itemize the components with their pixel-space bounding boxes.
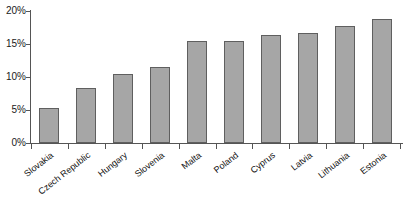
x-tick-mark (400, 144, 401, 149)
bar (150, 67, 170, 143)
x-tick-mark (326, 144, 327, 149)
bar (261, 35, 281, 143)
x-tick-mark (105, 144, 106, 149)
x-tick-mark (179, 144, 180, 149)
bar (187, 41, 207, 143)
bar (372, 19, 392, 143)
x-label-slot: Czech Republic (68, 150, 105, 208)
x-axis-label: Slovakia (23, 150, 56, 179)
y-tick-label-0: 0% (12, 138, 26, 148)
x-axis-label: Latvia (289, 150, 314, 173)
x-axis-label: Cyprus (248, 150, 277, 175)
x-axis-label: Malta (180, 150, 204, 171)
x-label-slot: Estonia (363, 150, 400, 208)
y-tick-label-5: 5% (12, 105, 26, 115)
bar-slot (252, 11, 289, 143)
x-label-slot: Slovenia (142, 150, 179, 208)
bar (335, 26, 355, 143)
bar-slot (289, 11, 326, 143)
bar (39, 108, 59, 143)
x-label-slot: Lithuania (326, 150, 363, 208)
x-label-slot: Malta (179, 150, 216, 208)
y-tick-label-10: 10% (6, 72, 26, 82)
x-tick-mark (252, 144, 253, 149)
x-axis-tick-marks (31, 144, 400, 149)
bar-slot (68, 11, 105, 143)
bar (298, 33, 318, 143)
bar (224, 41, 244, 143)
bar-slot (216, 11, 253, 143)
x-tick-mark (142, 144, 143, 149)
x-axis-label: Estonia (358, 150, 388, 176)
x-tick-mark (31, 144, 32, 149)
x-tick-mark (289, 144, 290, 149)
x-tick-mark (216, 144, 217, 149)
bar (113, 74, 133, 143)
bar-slot (363, 11, 400, 143)
bar (76, 88, 96, 143)
x-tick-mark (68, 144, 69, 149)
bar-chart: 20% 15% 10% 5% 0% SlovakiaCzech Republic… (0, 0, 410, 213)
x-tick-mark (363, 144, 364, 149)
y-axis-tick-labels: 20% 15% 10% 5% 0% (0, 0, 26, 213)
bar-series (31, 11, 400, 143)
x-label-slot: Hungary (105, 150, 142, 208)
bar-slot (326, 11, 363, 143)
y-tick-label-15: 15% (6, 39, 26, 49)
bar-slot (105, 11, 142, 143)
x-axis-label: Poland (212, 150, 240, 175)
x-axis-category-labels: SlovakiaCzech RepublicHungarySloveniaMal… (31, 150, 400, 208)
bar-slot (179, 11, 216, 143)
x-label-slot: Poland (216, 150, 253, 208)
bar-slot (31, 11, 68, 143)
bar-slot (142, 11, 179, 143)
y-tick-label-20: 20% (6, 6, 26, 16)
x-label-slot: Cyprus (252, 150, 289, 208)
